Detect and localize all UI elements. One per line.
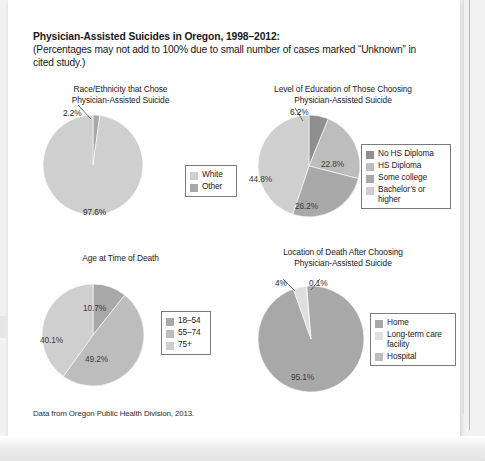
legend-swatch-icon	[375, 353, 383, 361]
legend-label: Bachelor’s or higher	[378, 185, 425, 204]
legend-swatch-icon	[366, 163, 374, 171]
chart-title-age-at-death: Age at Time of Death	[33, 253, 208, 264]
figure-title: Physician-Assisted Suicides in Oregon, 1…	[33, 30, 433, 70]
legend-item[interactable]: Other	[190, 182, 231, 192]
pie-label-age-55-74: 49.2%	[85, 354, 108, 364]
legend-item[interactable]: 18–54	[166, 316, 205, 326]
legend-item[interactable]: 55–74	[166, 328, 205, 338]
pie-label-hs-diploma: 22.8%	[321, 159, 344, 169]
legend-swatch-icon	[190, 184, 198, 192]
legend-label: 55–74	[178, 328, 201, 338]
figure-title-line1: Physician-Assisted Suicides in Oregon, 1…	[33, 30, 433, 43]
legend-item[interactable]: Some college	[366, 173, 445, 183]
chart-title-race-ethnicity: Race/Ethnicity that Chose Physician-Assi…	[33, 84, 208, 105]
pie-slice[interactable]	[43, 115, 143, 215]
legend-education-level: No HS Diploma HS Diploma Some college Ba…	[361, 144, 451, 209]
legend-swatch-icon	[366, 175, 374, 183]
legend-label: Long-term care facility	[387, 330, 442, 349]
legend-label: Other	[202, 182, 222, 192]
legend-label: Hospital	[387, 352, 416, 362]
pie-label-home: 95.1%	[291, 372, 314, 382]
legend-item[interactable]: White	[190, 170, 231, 180]
legend-label: 18–54	[178, 316, 201, 326]
legend-item[interactable]: Home	[375, 318, 450, 328]
legend-swatch-icon	[166, 318, 174, 326]
legend-swatch-icon	[375, 332, 383, 340]
legend-label: HS Diploma	[378, 161, 421, 171]
legend-swatch-icon	[366, 151, 374, 159]
pie-label-bachelors-or-higher: 44.8%	[249, 174, 272, 184]
pie-label-age-75-plus: 40.1%	[40, 335, 63, 345]
figure-title-line2: (Percentages may not add to 100% due to …	[33, 43, 433, 70]
legend-label: White	[202, 170, 223, 180]
chart-panel-location-of-death: Location of Death After Choosing Physici…	[243, 247, 458, 402]
legend-label: Some college	[378, 173, 427, 183]
chart-panel-age-at-death: Age at Time of Death 10.7% 49.2% 40.1% 1…	[33, 253, 233, 403]
legend-age-at-death: 18–54 55–74 75+	[161, 311, 211, 355]
legend-item[interactable]: No HS Diploma	[366, 149, 445, 159]
pie-label-some-college: 26.2%	[295, 201, 318, 211]
legend-item[interactable]: Long-term care facility	[375, 330, 450, 349]
legend-item[interactable]: Bachelor’s or higher	[366, 185, 445, 204]
legend-swatch-icon	[375, 320, 383, 328]
legend-location-of-death: Home Long-term care facility Hospital	[370, 313, 456, 366]
chart-panel-race-ethnicity: Race/Ethnicity that Chose Physician-Assi…	[33, 84, 233, 224]
chart-panel-education-level: Level of Education of Those Choosing Phy…	[243, 84, 458, 229]
pie-label-long-term-care: 4%	[275, 278, 287, 288]
legend-item[interactable]: HS Diploma	[366, 161, 445, 171]
legend-race-ethnicity: White Other	[185, 165, 237, 197]
pie-label-no-hs-diploma: 6.2%	[290, 107, 309, 117]
pie-chart-location-of-death	[249, 281, 379, 406]
legend-swatch-icon	[190, 172, 198, 180]
legend-item[interactable]: 75+	[166, 340, 205, 350]
pie-label-race-white: 97.6%	[83, 207, 106, 217]
legend-swatch-icon	[166, 342, 174, 350]
chart-title-education-level: Level of Education of Those Choosing Phy…	[243, 84, 443, 105]
legend-item[interactable]: Hospital	[375, 352, 450, 362]
pie-label-race-other: 2.2%	[63, 108, 82, 118]
legend-label: No HS Diploma	[378, 149, 434, 159]
legend-swatch-icon	[366, 187, 374, 195]
legend-label: Home	[387, 318, 409, 328]
pie-label-age-18-54: 10.7%	[83, 303, 106, 313]
pie-label-hospital: 0.1%	[309, 278, 328, 288]
legend-swatch-icon	[166, 330, 174, 338]
source-note: Data from Oregon Public Health Division,…	[33, 409, 194, 418]
legend-label: 75+	[178, 340, 192, 350]
chart-title-location-of-death: Location of Death After Choosing Physici…	[243, 247, 443, 268]
